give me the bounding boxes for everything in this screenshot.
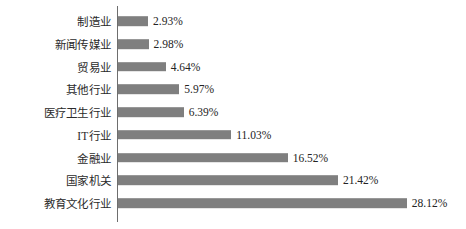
bar-value-label: 4.64% <box>171 61 201 73</box>
bar <box>118 198 407 208</box>
bar <box>118 62 166 72</box>
bar <box>118 175 338 185</box>
bar-row: 制造业2.93% <box>0 10 466 33</box>
category-label: 教育文化行业 <box>44 195 111 211</box>
bar-value-label: 21.42% <box>343 174 378 186</box>
bar-row: 国家机关21.42% <box>0 169 466 192</box>
bar-row: 金融业16.52% <box>0 146 466 169</box>
bar-row: 医疗卫生行业6.39% <box>0 101 466 124</box>
category-label: 医疗卫生行业 <box>44 104 111 120</box>
category-label: 贸易业 <box>77 59 111 75</box>
bar-value-label: 2.93% <box>153 15 183 27</box>
bar-chart: 制造业2.93%新闻传媒业2.98%贸易业4.64%其他行业5.97%医疗卫生行… <box>0 0 466 229</box>
category-label: 国家机关 <box>66 172 111 188</box>
category-label: 新闻传媒业 <box>55 36 111 52</box>
bar <box>118 130 231 140</box>
category-label: 其他行业 <box>66 81 111 97</box>
bar-row: 新闻传媒业2.98% <box>0 33 466 56</box>
bar-value-label: 28.12% <box>412 197 447 209</box>
category-label: IT行业 <box>77 127 111 143</box>
bar-value-label: 5.97% <box>184 83 214 95</box>
bar <box>118 107 184 117</box>
bar-value-label: 16.52% <box>293 152 328 164</box>
bar-value-label: 2.98% <box>154 38 184 50</box>
bar <box>118 17 148 27</box>
category-label: 金融业 <box>77 150 111 166</box>
category-label: 制造业 <box>77 13 111 29</box>
bar-row: 其他行业5.97% <box>0 78 466 101</box>
bar-value-label: 6.39% <box>189 106 219 118</box>
bar-row: 教育文化行业28.12% <box>0 192 466 215</box>
bar-value-label: 11.03% <box>236 129 271 141</box>
bar <box>118 153 288 163</box>
bar <box>118 39 149 49</box>
bar-row: 贸易业4.64% <box>0 55 466 78</box>
bar <box>118 85 179 95</box>
bar-row: IT行业11.03% <box>0 124 466 147</box>
